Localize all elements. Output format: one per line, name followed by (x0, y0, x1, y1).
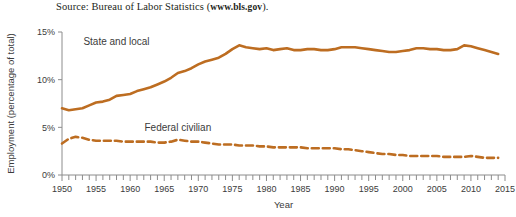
y-axis-tick-label: 0% (42, 170, 55, 180)
line-chart-plot: 0%5%10%15%195019551960196519701975198019… (0, 0, 516, 217)
x-axis-tick-label: 1985 (291, 184, 311, 194)
x-axis-tick-label: 1950 (52, 184, 72, 194)
series-line-1 (62, 137, 498, 158)
x-axis-tick-label: 2005 (427, 184, 447, 194)
x-axis-title: Year (274, 199, 293, 210)
series-line-0 (62, 45, 498, 110)
series-label-0: State and local (83, 36, 149, 47)
x-axis-tick-label: 1960 (120, 184, 140, 194)
y-axis-tick-label: 10% (37, 75, 55, 85)
x-axis-tick-label: 2010 (461, 184, 481, 194)
x-axis-tick-label: 2000 (393, 184, 413, 194)
x-axis-tick-label: 1970 (188, 184, 208, 194)
y-axis-tick-label: 5% (42, 123, 55, 133)
chart-axes (62, 32, 505, 175)
chart-figure: Source: Bureau of Labor Statistics (www.… (0, 0, 516, 217)
y-axis-title: Employment (percentage of total) (5, 33, 16, 173)
x-axis-tick-label: 1975 (222, 184, 242, 194)
series-label-1: Federal civilian (145, 122, 212, 133)
x-axis-tick-label: 2015 (495, 184, 515, 194)
y-axis-tick-label: 15% (37, 27, 55, 37)
x-axis-tick-label: 1965 (154, 184, 174, 194)
x-axis-tick-label: 1990 (325, 184, 345, 194)
x-axis-tick-label: 1955 (86, 184, 106, 194)
x-axis-tick-label: 1995 (359, 184, 379, 194)
x-axis-tick-label: 1980 (256, 184, 276, 194)
